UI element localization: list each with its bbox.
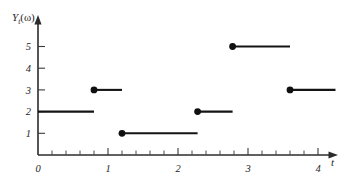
x-tick-label-1: 1 — [105, 163, 110, 174]
y-tick-label-2: 2 — [26, 106, 32, 117]
x-tick-group: 01234 — [35, 148, 321, 174]
chart-figure: Yt(ω) t 12345 01234 — [0, 0, 344, 183]
step-path-group — [38, 43, 336, 137]
y-axis-arrow-icon — [34, 15, 41, 25]
jump-point-dot — [194, 108, 201, 115]
x-axis-label: t — [331, 156, 335, 168]
y-tick-label-4: 4 — [26, 63, 32, 74]
jump-point-dot — [229, 43, 236, 50]
y-tick-label-3: 3 — [25, 85, 31, 96]
jump-point-dot — [119, 130, 126, 137]
axes-group — [34, 15, 338, 159]
y-axis-label-argument: (ω) — [20, 11, 35, 24]
jump-point-dot — [91, 87, 98, 94]
y-tick-label-5: 5 — [26, 41, 31, 52]
jump-point-dot — [287, 87, 294, 94]
y-axis-label: Yt(ω) — [12, 11, 35, 26]
x-tick-label-3: 3 — [244, 163, 250, 174]
step-function-plot: Yt(ω) t 12345 01234 — [0, 0, 344, 183]
x-tick-label-2: 2 — [175, 163, 181, 174]
x-tick-label-0: 0 — [35, 163, 41, 174]
y-tick-label-1: 1 — [26, 128, 31, 139]
x-tick-label-4: 4 — [315, 163, 321, 174]
y-tick-group: 12345 — [25, 41, 45, 139]
